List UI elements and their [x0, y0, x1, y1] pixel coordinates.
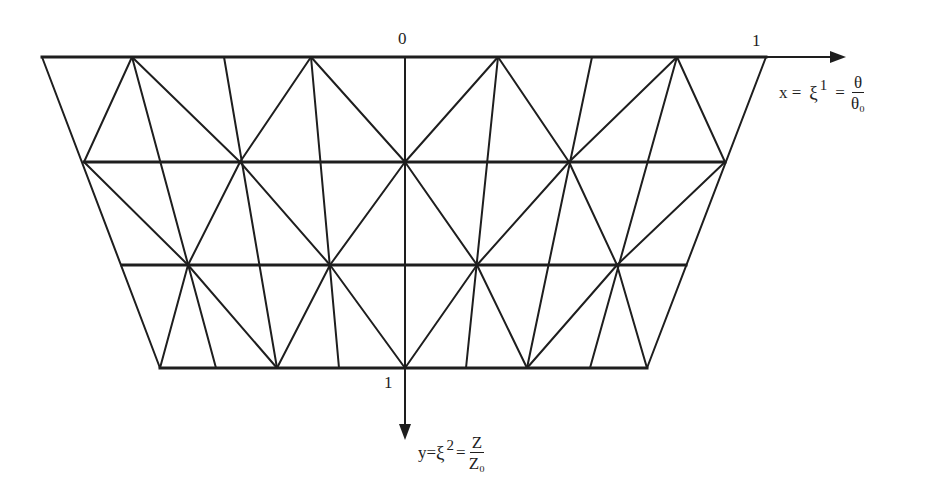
x-eq-equals: =	[835, 83, 845, 103]
column-line-1	[132, 57, 216, 368]
column-line-6	[527, 57, 592, 368]
x-origin-label: 0	[398, 30, 407, 47]
diagonal-edge-11	[330, 162, 405, 265]
diagonal-edge-21	[477, 265, 527, 368]
x-eq-xi: ξ	[809, 82, 817, 104]
diagonal-edge-4	[405, 57, 498, 162]
column-line-5	[466, 57, 498, 368]
diagonal-edge-9	[188, 162, 240, 265]
y-end-label: 1	[384, 374, 393, 391]
y-eq-equals: =	[456, 443, 466, 463]
y-eq-superscript: 2	[447, 437, 455, 454]
mesh-edges	[42, 57, 766, 368]
y-axis-arrowhead-icon	[399, 424, 411, 440]
y-eq-denominator: Z₀	[469, 453, 485, 472]
y-eq-xi: ξ	[436, 442, 444, 464]
diagonal-edge-3	[311, 57, 405, 162]
diagonal-edge-6	[569, 57, 677, 162]
y-eq-fraction: Z Z₀	[469, 434, 485, 472]
diagonal-edge-12	[405, 162, 477, 265]
x-eq-denominator: θ₀	[851, 93, 865, 112]
diagonal-edge-5	[498, 57, 569, 162]
diagonal-edge-19	[330, 265, 405, 368]
diagonal-edge-13	[477, 162, 569, 265]
column-line-0	[42, 57, 160, 368]
diagonal-edge-10	[240, 162, 330, 265]
diagonal-edge-20	[405, 265, 477, 368]
y-eq-numerator: Z	[470, 434, 484, 453]
diagonal-edge-16	[160, 265, 188, 368]
x-eq-fraction: θ θ₀	[851, 74, 865, 112]
diagonal-edge-7	[677, 57, 725, 162]
column-line-3	[311, 57, 339, 368]
x-axis-arrowhead-icon	[830, 51, 846, 63]
x-eq-lhs: x =	[779, 83, 801, 103]
x-eq-numerator: θ	[852, 74, 864, 93]
diagonal-edge-14	[569, 162, 617, 265]
x-eq-superscript: 1	[820, 77, 828, 94]
column-line-2	[224, 57, 277, 368]
diagonal-edge-8	[84, 162, 188, 265]
diagonal-edge-23	[617, 265, 647, 368]
y-eq-lhs: y=	[418, 443, 436, 463]
diagonal-edge-18	[277, 265, 330, 368]
y-axis-equation: y= ξ 2 = Z Z₀	[418, 434, 485, 472]
diagonal-edge-1	[132, 57, 240, 162]
diagonal-edge-2	[240, 57, 311, 162]
x-axis-equation: x = ξ 1 = θ θ₀	[779, 74, 865, 112]
x-end-label: 1	[752, 32, 761, 49]
mesh-diagram: 0 1 1 x = ξ 1 = θ θ₀ y= ξ 2 = Z Z₀	[0, 0, 940, 496]
diagonal-edge-0	[84, 57, 132, 162]
